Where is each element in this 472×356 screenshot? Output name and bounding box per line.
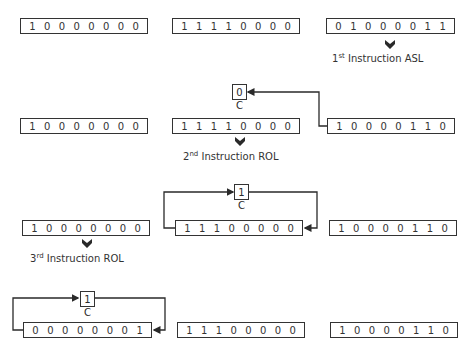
register-row1-b: 11110000 (172, 18, 300, 34)
bit: 0 (284, 223, 298, 234)
bit: 0 (43, 325, 57, 336)
bit: 0 (439, 325, 453, 336)
bit: 1 (197, 325, 211, 336)
bit: 1 (180, 223, 194, 234)
bit: 1 (423, 223, 437, 234)
bit: 1 (25, 121, 39, 132)
bit: 0 (84, 21, 98, 32)
bit: 1 (210, 223, 224, 234)
register-row3-b: 11100000 (175, 220, 303, 236)
down-arrow-icon (235, 137, 245, 146)
instruction-label-1: 1st Instruction ASL (332, 52, 423, 64)
bit: 1 (195, 223, 209, 234)
bit: 0 (114, 21, 128, 32)
bit: 0 (271, 325, 285, 336)
carry-label: C (234, 200, 249, 211)
register-row2-b: 11110000 (172, 118, 300, 134)
bit: 0 (377, 121, 391, 132)
bit: 0 (376, 21, 390, 32)
bit: 0 (86, 223, 100, 234)
bit: 0 (380, 325, 394, 336)
bit: 0 (103, 325, 117, 336)
carry-flag-row3: 1 (234, 184, 249, 200)
register-row1-c: 01000011 (326, 18, 455, 34)
bit: 1 (421, 121, 435, 132)
bit: 0 (266, 121, 280, 132)
bit: 0 (70, 121, 84, 132)
bit: 1 (192, 121, 206, 132)
bit: 0 (129, 121, 143, 132)
register-row3-c: 10000110 (329, 220, 457, 236)
instruction-label-2: 2nd Instruction ROL (183, 150, 279, 162)
bit: 1 (25, 21, 39, 32)
bit: 1 (133, 325, 147, 336)
bit: 0 (365, 325, 379, 336)
bit: 1 (222, 21, 236, 32)
carry-flag-row4: 1 (80, 291, 95, 307)
register-row2-c: 10000110 (327, 118, 455, 134)
bit: 0 (286, 325, 300, 336)
bit: 0 (391, 121, 405, 132)
bit: 0 (57, 223, 71, 234)
bit: 0 (88, 325, 102, 336)
bit: 1 (406, 121, 420, 132)
bit: 0 (281, 121, 295, 132)
bit: 1 (334, 223, 348, 234)
bit: 0 (266, 21, 280, 32)
bit: 0 (362, 121, 376, 132)
bit: 0 (406, 21, 420, 32)
bit: 0 (241, 325, 255, 336)
register-row3-a: 10000000 (22, 220, 150, 236)
bit: 1 (409, 325, 423, 336)
down-arrow-icon (82, 239, 92, 248)
bit: 0 (438, 223, 452, 234)
bit: 1 (421, 21, 435, 32)
bit: 0 (269, 223, 283, 234)
register-row1-a: 10000000 (20, 18, 148, 34)
bit: 0 (40, 121, 54, 132)
bit: 0 (129, 21, 143, 32)
bit: 1 (27, 223, 41, 234)
register-row4-b: 11100000 (177, 322, 305, 338)
bit: 0 (254, 223, 268, 234)
carry-label: C (80, 307, 95, 318)
bit: 0 (236, 121, 250, 132)
bit: 0 (379, 223, 393, 234)
bit: 0 (256, 325, 270, 336)
register-row2-a: 10000000 (20, 118, 148, 134)
bit: 1 (222, 121, 236, 132)
bit: 0 (251, 121, 265, 132)
bit: 0 (349, 223, 363, 234)
bit: 0 (73, 325, 87, 336)
bit: 1 (408, 223, 422, 234)
down-arrow-icon (385, 40, 395, 49)
register-row4-c: 10000110 (330, 322, 458, 338)
bit: 0 (114, 121, 128, 132)
bit: 1 (192, 21, 206, 32)
register-row4-a: 00000001 (23, 322, 152, 338)
bit: 0 (84, 121, 98, 132)
instruction-label-3: 3rd Instruction ROL (30, 252, 124, 264)
bit: 0 (70, 21, 84, 32)
bit: 0 (42, 223, 56, 234)
bit: 0 (58, 325, 72, 336)
bit: 0 (251, 21, 265, 32)
bit: 0 (391, 21, 405, 32)
carry-label: C (232, 100, 247, 111)
bit: 0 (55, 21, 69, 32)
carry-flag-row2: 0 (232, 84, 247, 100)
bit: 1 (207, 21, 221, 32)
bit: 0 (55, 121, 69, 132)
bit: 1 (212, 325, 226, 336)
bit: 0 (118, 325, 132, 336)
bit: 0 (393, 223, 407, 234)
bit: 1 (346, 21, 360, 32)
bit: 0 (331, 21, 345, 32)
bit: 0 (227, 325, 241, 336)
bit: 0 (116, 223, 130, 234)
bit: 0 (40, 21, 54, 32)
bit: 0 (281, 21, 295, 32)
bit: 0 (72, 223, 86, 234)
bit: 0 (101, 223, 115, 234)
bit: 1 (436, 21, 450, 32)
